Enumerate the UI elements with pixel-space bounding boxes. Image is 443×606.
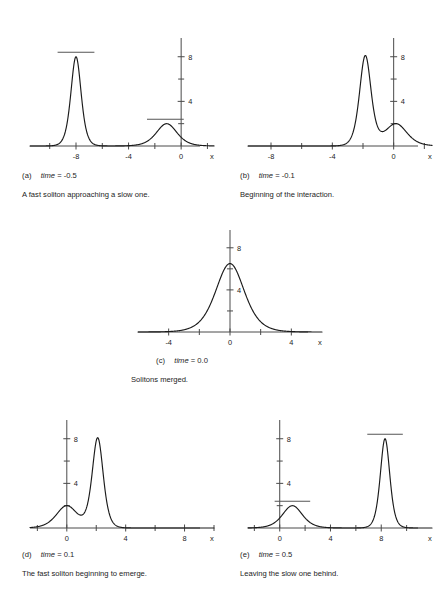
panel-c-description: Solitons merged. [131,375,208,384]
svg-text:x: x [428,152,432,161]
svg-text:0: 0 [392,152,396,161]
svg-text:4: 4 [188,97,192,106]
svg-text:8: 8 [74,435,78,444]
panel-c-time-label: time [174,356,188,365]
panel-b-description: Beginning of the interaction. [240,190,334,199]
panel-e-time-label: time [259,550,273,559]
panel-c-plot: -40448x [130,222,330,352]
svg-text:8: 8 [287,435,291,444]
svg-text:4: 4 [237,286,241,295]
panel-a: -8-4048x [22,22,222,167]
panel-c-chart: -40448x [130,222,330,352]
panel-a-plot: -8-4048x [22,22,222,167]
panel-d-caption: (d) time = 0.1 The fast soliton beginnin… [22,551,147,578]
svg-text:-8: -8 [73,152,80,161]
svg-text:x: x [210,534,214,543]
panel-b: -8-4048x [240,22,440,167]
panel-a-caption-line: (a) time = -0.5 [22,172,150,180]
svg-text:-4: -4 [165,338,172,347]
panel-d: 04848x [22,404,222,549]
panel-d-time-label: time [41,550,55,559]
panel-e-caption-line: (e) time = 0.5 [240,551,338,559]
svg-text:8: 8 [188,53,192,62]
panel-e-plot: 04848x [240,404,440,549]
panel-d-caption-line: (d) time = 0.1 [22,551,147,559]
panel-a-caption: (a) time = -0.5 A fast soliton approachi… [22,172,150,199]
soliton-figure: -8-4048x (a) time = -0.5 A fast soliton … [0,0,443,606]
panel-a-time-value: = -0.5 [57,171,77,180]
panel-d-plot: 04848x [22,404,222,549]
svg-text:x: x [210,152,214,161]
svg-text:4: 4 [328,534,332,543]
panel-e-chart: 04848x [240,404,440,549]
panel-c-label: (c) [156,356,165,365]
panel-b-time-value: = -0.1 [275,171,295,180]
panel-e-time-value: = 0.5 [275,550,292,559]
svg-text:4: 4 [74,479,78,488]
svg-text:4: 4 [289,338,293,347]
panel-a-label: (a) [22,171,32,180]
panel-c-caption: (c) time = 0.0 Solitons merged. [156,357,208,384]
svg-text:-4: -4 [329,152,336,161]
panel-d-description: The fast soliton beginning to emerge. [22,569,147,578]
panel-e-description: Leaving the slow one behind. [240,569,338,578]
panel-e-caption: (e) time = 0.5 Leaving the slow one behi… [240,551,338,578]
svg-text:4: 4 [124,534,128,543]
panel-c: -40448x [130,222,330,352]
svg-text:x: x [318,338,322,347]
panel-b-time-label: time [259,171,273,180]
svg-text:-4: -4 [125,152,132,161]
panel-a-time-label: time [41,171,55,180]
svg-text:8: 8 [401,53,405,62]
panel-b-label: (b) [240,171,250,180]
panel-e: 04848x [240,404,440,549]
panel-d-label: (d) [22,550,32,559]
panel-b-chart: -8-4048x [240,22,440,167]
panel-d-chart: 04848x [22,404,222,549]
svg-text:8: 8 [379,534,383,543]
panel-c-time-value: = 0.0 [191,356,208,365]
svg-text:8: 8 [182,534,186,543]
svg-text:8: 8 [237,244,241,253]
svg-text:0: 0 [278,534,282,543]
svg-text:0: 0 [228,338,232,347]
panel-b-plot: -8-4048x [240,22,440,167]
svg-text:0: 0 [179,152,183,161]
panel-b-caption: (b) time = -0.1 Beginning of the interac… [240,172,334,199]
panel-c-caption-line: (c) time = 0.0 [156,357,208,365]
svg-text:0: 0 [65,534,69,543]
panel-a-chart: -8-4048x [22,22,222,167]
panel-e-label: (e) [240,550,250,559]
svg-text:4: 4 [401,97,405,106]
panel-b-caption-line: (b) time = -0.1 [240,172,334,180]
panel-a-description: A fast soliton approaching a slow one. [22,190,150,199]
panel-d-time-value: = 0.1 [57,550,74,559]
svg-text:4: 4 [287,479,291,488]
svg-text:x: x [428,534,432,543]
svg-text:-8: -8 [268,152,275,161]
